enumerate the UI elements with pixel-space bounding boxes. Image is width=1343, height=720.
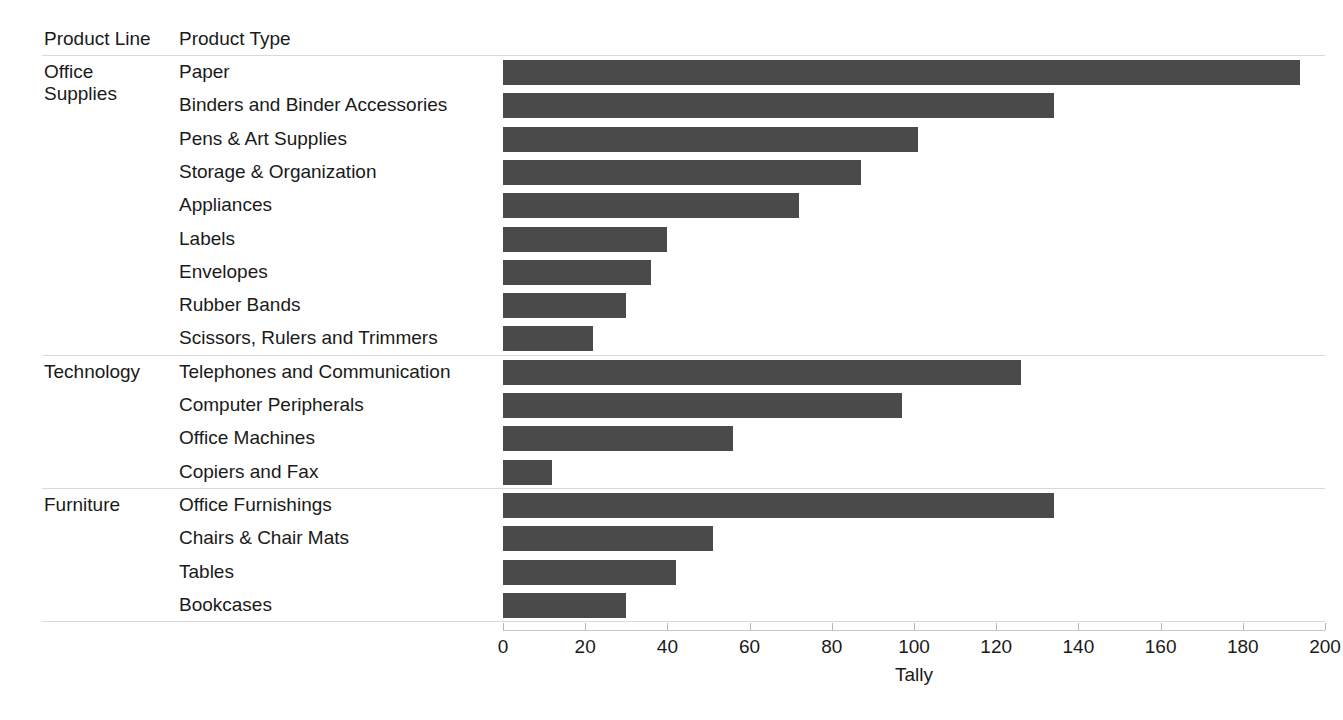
bar[interactable] (503, 193, 799, 218)
chart-row[interactable]: Appliances (0, 189, 1343, 222)
product-type-label: Labels (179, 228, 235, 250)
x-axis-line (503, 630, 1325, 631)
x-axis-tick-label: 80 (821, 636, 842, 658)
product-type-label: Scissors, Rulers and Trimmers (179, 327, 438, 349)
chart-row[interactable]: Envelopes (0, 256, 1343, 289)
x-axis-tick-label: 180 (1227, 636, 1259, 658)
x-axis-tick (1078, 623, 1079, 630)
x-axis-tick-label: 100 (898, 636, 930, 658)
product-type-label: Pens & Art Supplies (179, 128, 347, 150)
chart-row[interactable]: Chairs & Chair Mats (0, 522, 1343, 555)
x-axis-tick (914, 623, 915, 630)
x-axis-tick (750, 623, 751, 630)
product-type-label: Appliances (179, 194, 272, 216)
bar[interactable] (503, 393, 902, 418)
product-line-label: Furniture (44, 494, 120, 516)
chart-row[interactable]: Rubber Bands (0, 289, 1343, 322)
product-type-label: Computer Peripherals (179, 394, 364, 416)
chart-row[interactable]: Labels (0, 223, 1343, 256)
product-type-label: Telephones and Communication (179, 361, 450, 383)
chart-row[interactable]: Pens & Art Supplies (0, 123, 1343, 156)
bar[interactable] (503, 127, 918, 152)
product-type-label: Envelopes (179, 261, 268, 283)
product-type-column-header: Product Type (179, 28, 291, 50)
group-separator-bottom (42, 621, 1325, 622)
x-axis-tick (667, 623, 668, 630)
chart-row[interactable]: TechnologyTelephones and Communication (0, 356, 1343, 389)
product-type-label: Tables (179, 561, 234, 583)
bar[interactable] (503, 493, 1054, 518)
bar[interactable] (503, 460, 552, 485)
x-axis-tick (585, 623, 586, 630)
x-axis-tick-label: 200 (1309, 636, 1341, 658)
chart-row[interactable]: FurnitureOffice Furnishings (0, 489, 1343, 522)
bar[interactable] (503, 93, 1054, 118)
x-axis-tick-label: 20 (575, 636, 596, 658)
x-axis-tick-label: 140 (1063, 636, 1095, 658)
chart-row[interactable]: Storage & Organization (0, 156, 1343, 189)
product-type-label: Copiers and Fax (179, 461, 318, 483)
bar[interactable] (503, 260, 651, 285)
product-type-label: Rubber Bands (179, 294, 300, 316)
product-type-label: Storage & Organization (179, 161, 377, 183)
bar[interactable] (503, 426, 733, 451)
bar[interactable] (503, 360, 1021, 385)
x-axis-tick-label: 160 (1145, 636, 1177, 658)
bar[interactable] (503, 326, 593, 351)
x-axis-tick (1243, 623, 1244, 630)
column-header-row: Product Line Product Type (0, 28, 1343, 56)
x-axis-tick-label: 120 (980, 636, 1012, 658)
x-axis-tick (1325, 623, 1326, 630)
x-axis-tick-label: 60 (739, 636, 760, 658)
x-axis-tick-label: 40 (657, 636, 678, 658)
x-axis-tick (832, 623, 833, 630)
bar[interactable] (503, 293, 626, 318)
bar[interactable] (503, 593, 626, 618)
chart-row[interactable]: Bookcases (0, 589, 1343, 622)
x-axis-tick (1161, 623, 1162, 630)
x-axis-tick-label: 0 (498, 636, 509, 658)
product-type-label: Bookcases (179, 594, 272, 616)
tally-bar-chart: Product Line Product Type OfficeSupplies… (0, 0, 1343, 720)
chart-row[interactable]: Binders and Binder Accessories (0, 89, 1343, 122)
bar[interactable] (503, 160, 861, 185)
product-type-label: Office Furnishings (179, 494, 332, 516)
x-axis-title: Tally (895, 664, 933, 686)
chart-row[interactable]: Office Machines (0, 422, 1343, 455)
x-axis-tick (503, 623, 504, 630)
chart-row[interactable]: Tables (0, 556, 1343, 589)
chart-row[interactable]: OfficeSuppliesPaper (0, 56, 1343, 89)
bar[interactable] (503, 227, 667, 252)
product-line-label: Office (44, 61, 93, 83)
product-line-column-header: Product Line (44, 28, 151, 50)
product-type-label: Office Machines (179, 427, 315, 449)
chart-row[interactable]: Scissors, Rulers and Trimmers (0, 322, 1343, 355)
bar[interactable] (503, 526, 713, 551)
chart-row[interactable]: Computer Peripherals (0, 389, 1343, 422)
bar[interactable] (503, 60, 1300, 85)
product-type-label: Chairs & Chair Mats (179, 527, 349, 549)
bar[interactable] (503, 560, 676, 585)
chart-row[interactable]: Copiers and Fax (0, 456, 1343, 489)
product-line-label: Technology (44, 361, 140, 383)
x-axis-tick (996, 623, 997, 630)
product-type-label: Paper (179, 61, 230, 83)
product-type-label: Binders and Binder Accessories (179, 94, 447, 116)
